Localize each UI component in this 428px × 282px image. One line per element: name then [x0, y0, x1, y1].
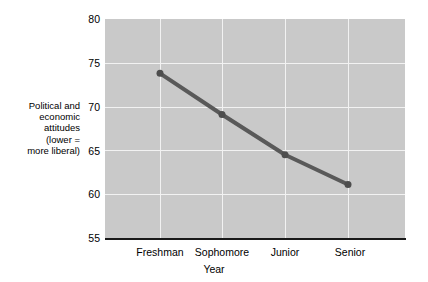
y-axis-tick-label: 80 [78, 14, 100, 25]
x-axis-tick-label: Freshman [136, 247, 183, 258]
y-axis-tick-label: 75 [78, 58, 100, 69]
data-point [157, 70, 164, 77]
y-axis-tick-label: 55 [78, 233, 100, 244]
y-axis-tick-label: 60 [78, 189, 100, 200]
data-point [345, 181, 352, 188]
chart-figure: Political and economic attitudes (lower … [0, 0, 428, 282]
data-point [219, 111, 226, 118]
x-axis-title: Year [0, 263, 428, 275]
x-axis-tick-label: Sophomore [195, 247, 249, 258]
x-axis-line [105, 238, 406, 240]
x-axis-tick-label: Junior [271, 247, 300, 258]
x-axis-tick-label: Senior [335, 247, 365, 258]
series-line [160, 73, 348, 184]
y-axis-tick-label: 70 [78, 102, 100, 113]
y-axis-tick-label: 65 [78, 146, 100, 157]
data-point [282, 151, 289, 158]
y-axis-title: Political and economic attitudes (lower … [4, 100, 80, 156]
series-line-group [105, 19, 405, 238]
